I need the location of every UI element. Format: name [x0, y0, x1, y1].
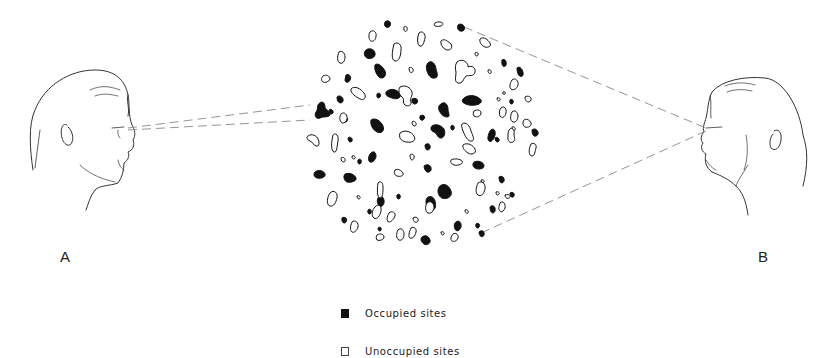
head-b-icon: [701, 78, 807, 215]
observer-b-label: B: [758, 248, 768, 265]
sight-lines-a: [128, 105, 310, 130]
site-cluster: [307, 21, 538, 245]
observer-a-label: A: [60, 248, 70, 265]
legend-item-occupied: Occupied sites: [341, 308, 447, 319]
legend-label-unoccupied: Unoccupied sites: [365, 346, 460, 357]
unoccupied-sites: [307, 22, 536, 241]
legend-item-unoccupied: Unoccupied sites: [341, 346, 460, 357]
figure-canvas: A B Occupied sites Unoccupied sites: [0, 0, 825, 358]
diagram-svg: [0, 0, 825, 358]
filled-square-icon: [341, 309, 349, 318]
legend-label-occupied: Occupied sites: [365, 308, 447, 319]
head-a-icon: [30, 70, 135, 210]
empty-square-icon: [341, 347, 349, 356]
